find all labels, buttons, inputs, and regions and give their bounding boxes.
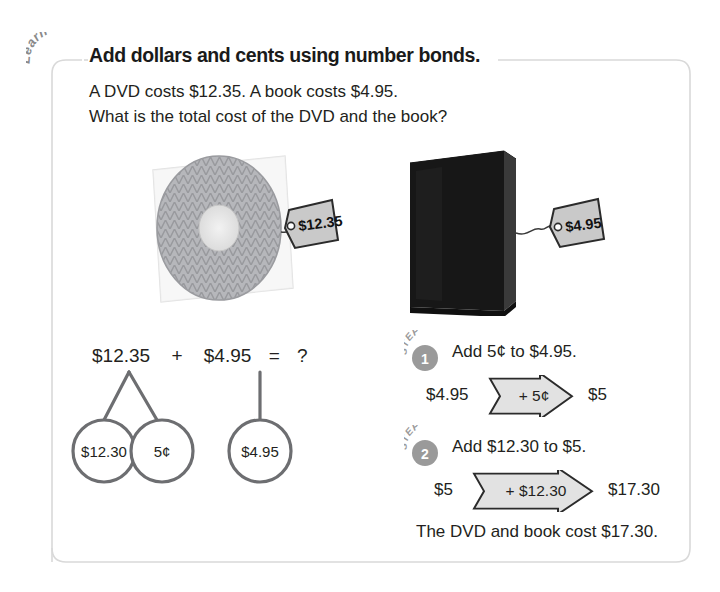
step-2-badge: STEP 2 [404, 425, 452, 469]
learn-badge: Learn [26, 32, 98, 72]
step-2-from: $5 [434, 480, 453, 500]
bond-branch-left [104, 372, 129, 420]
dvd-illustration: $12.35 [143, 148, 368, 313]
bond-part-label-3: $4.95 [241, 443, 279, 460]
book-body [410, 151, 516, 316]
bond-result: ? [297, 345, 308, 366]
step-2-to: $17.30 [608, 480, 660, 500]
step-1-operation: + 5¢ [488, 375, 574, 417]
step-2-operation: + $12.30 [472, 470, 594, 512]
lesson-prompt: A DVD costs $12.35. A book costs $4.95. … [89, 79, 447, 129]
step-2-number: 2 [421, 446, 429, 462]
step-2-equation-row: $5 + $12.30 $17.30 [426, 470, 706, 512]
step-1-from: $4.95 [426, 385, 469, 405]
bond-part-label-1: $12.30 [81, 443, 127, 460]
learn-badge-label: Learn [26, 32, 50, 64]
lesson-title: Add dollars and cents using number bonds… [89, 44, 480, 67]
book-illustration: $4.95 [396, 141, 621, 316]
prompt-line-1: A DVD costs $12.35. A book costs $4.95. [89, 79, 447, 104]
bond-part-label-2: 5¢ [154, 443, 171, 460]
bond-equals: = [269, 345, 280, 366]
conclusion-text: The DVD and book cost $17.30. [416, 522, 658, 542]
step-1-to: $5 [588, 385, 607, 405]
bond-right-addend: $4.95 [204, 345, 252, 366]
bond-branch-right [129, 372, 157, 420]
bond-equation: $12.35 + $4.95 = ? [92, 345, 308, 366]
prompt-line-2: What is the total cost of the DVD and th… [89, 104, 447, 129]
number-bond-diagram: $12.35 + $4.95 = ? $12.30 5¢ $4.95 [70, 340, 380, 485]
bond-plus: + [171, 345, 182, 366]
bond-left-addend: $12.35 [92, 345, 150, 366]
step-2-arrow: + $12.30 [472, 470, 594, 512]
dvd-disc [157, 156, 281, 300]
step-1-badge: STEP 1 [404, 330, 452, 374]
book-tag-string [516, 225, 554, 234]
step-1-arrow: + 5¢ [488, 375, 574, 417]
step-1-equation-row: $4.95 + 5¢ $5 [426, 375, 706, 417]
step-2-instruction: Add $12.30 to $5. [452, 437, 586, 457]
step-1-instruction: Add 5¢ to $4.95. [452, 342, 577, 362]
step-1-number: 1 [421, 351, 429, 367]
worksheet-page: Learn Add dollars and cents using number… [0, 0, 720, 592]
svg-text:Learn: Learn [26, 32, 50, 64]
